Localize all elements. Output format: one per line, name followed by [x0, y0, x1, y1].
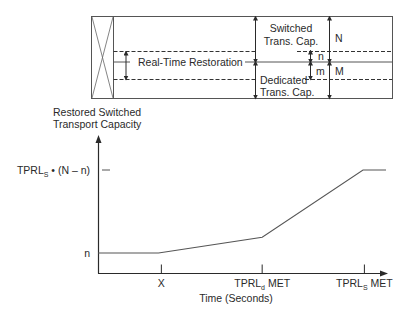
y-ticks: TPRLS • (N – n)n: [17, 164, 110, 259]
x-tick-label: TPRLS MET: [336, 277, 393, 291]
N-label: N: [335, 32, 343, 44]
M-label: M: [335, 65, 344, 77]
dedicated-label-1: Dedicated: [260, 74, 307, 86]
m-label: m: [316, 65, 325, 77]
restoration-chart: Restored Switched Transport Capacity TPR…: [17, 106, 393, 304]
x-ticks: XTPRLd METTPRLS MET: [158, 265, 393, 292]
switched-label-1: Switched: [270, 22, 313, 34]
diagram-canvas: Real-Time Restoration Switched Trans. Ca…: [0, 0, 408, 316]
series-line: [98, 170, 386, 253]
capacity-diagram: Real-Time Restoration Switched Trans. Ca…: [92, 17, 393, 99]
y-axis-label-line1: Restored Switched: [53, 106, 141, 118]
y-tick-label: n: [84, 247, 90, 259]
series-group: [98, 170, 386, 253]
x-tick-label: TPRLd MET: [234, 277, 290, 291]
real-time-restoration-label: Real-Time Restoration: [138, 56, 243, 68]
x-axis-label: Time (Seconds): [199, 292, 273, 304]
n-label: n: [318, 50, 324, 62]
y-axis-label-line2: Transport Capacity: [53, 118, 142, 130]
dedicated-label-2: Trans. Cap.: [260, 86, 314, 98]
x-tick-label: X: [158, 277, 165, 289]
y-tick-label: TPRLS • (N – n): [17, 164, 90, 178]
switched-label-2: Trans. Cap.: [264, 35, 318, 47]
